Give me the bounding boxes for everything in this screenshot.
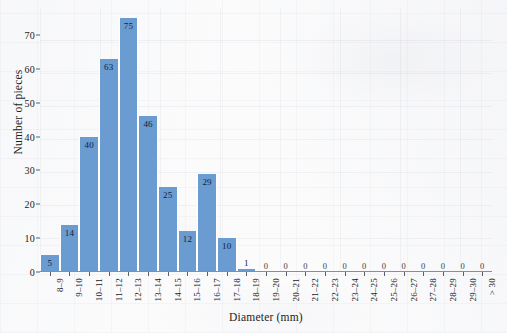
x-axis-tick: > 30 bbox=[472, 272, 492, 312]
bar-value-label: 0 bbox=[433, 261, 453, 271]
x-axis-tick-mark bbox=[463, 272, 464, 276]
y-axis-tick-label: 40 bbox=[24, 131, 35, 142]
x-axis-tick: 17–18 bbox=[217, 272, 237, 312]
bar-value-label: 40 bbox=[80, 140, 98, 150]
x-axis-tick-mark bbox=[364, 272, 365, 276]
bar-slot: 0 bbox=[276, 8, 296, 272]
bar-slot: 10 bbox=[217, 8, 237, 272]
bar-slot: 46 bbox=[138, 8, 158, 272]
x-axis-tick-mark bbox=[168, 272, 169, 276]
bar-value-label: 5 bbox=[41, 258, 59, 268]
y-axis-tick-label: 70 bbox=[24, 30, 35, 41]
x-axis-tick: 23–24 bbox=[335, 272, 355, 312]
histogram-bar[interactable]: 14 bbox=[60, 225, 80, 272]
bar-slot: 63 bbox=[99, 8, 119, 272]
x-axis-tick: 26–27 bbox=[394, 272, 414, 312]
x-axis-tick: 18–19 bbox=[237, 272, 257, 312]
histogram-bar[interactable]: 5 bbox=[40, 255, 60, 272]
x-axis-tick-mark bbox=[246, 272, 247, 276]
x-axis-tick-mark bbox=[305, 272, 306, 276]
bar-value-label: 12 bbox=[179, 234, 197, 244]
bar-value-label: 0 bbox=[315, 261, 335, 271]
bar-slot: 0 bbox=[296, 8, 316, 272]
x-axis-tick: 20–21 bbox=[276, 272, 296, 312]
bar-value-label: 0 bbox=[296, 261, 316, 271]
bar-value-label: 46 bbox=[139, 119, 157, 129]
bar-value-label: 10 bbox=[218, 241, 236, 251]
bar-slot: 25 bbox=[158, 8, 178, 272]
x-axis-tick: 12–13 bbox=[119, 272, 139, 312]
x-axis-tick-mark bbox=[227, 272, 228, 276]
bar-slot: 0 bbox=[335, 8, 355, 272]
x-axis-tick: 28–29 bbox=[433, 272, 453, 312]
x-axis-tick-mark bbox=[207, 272, 208, 276]
histogram-bar[interactable]: 10 bbox=[217, 238, 237, 272]
x-axis-tick-mark bbox=[443, 272, 444, 276]
bar-value-label: 0 bbox=[276, 261, 296, 271]
y-axis-tick-label: 30 bbox=[24, 165, 35, 176]
bar-slot: 0 bbox=[472, 8, 492, 272]
x-axis-tick-mark bbox=[128, 272, 129, 276]
bar-slot: 0 bbox=[315, 8, 335, 272]
histogram-bar[interactable]: 40 bbox=[79, 137, 99, 272]
x-axis-tick: 29–30 bbox=[453, 272, 473, 312]
bar-series: 51440637546251229101000000000000 bbox=[40, 8, 492, 272]
x-axis-tick: 9–10 bbox=[60, 272, 80, 312]
x-axis-tick: 10–11 bbox=[79, 272, 99, 312]
bar-slot: 12 bbox=[178, 8, 198, 272]
bar-value-label: 0 bbox=[256, 261, 276, 271]
bar-value-label: 0 bbox=[335, 261, 355, 271]
x-axis-tick: 16–17 bbox=[197, 272, 217, 312]
bar-slot: 14 bbox=[60, 8, 80, 272]
x-axis-tick: 13–14 bbox=[138, 272, 158, 312]
bar-slot: 1 bbox=[237, 8, 257, 272]
x-axis-tick-mark bbox=[423, 272, 424, 276]
bar-value-label: 0 bbox=[394, 261, 414, 271]
x-axis-tick: 19–20 bbox=[256, 272, 276, 312]
x-axis-ticks: 8–99–1010–1111–1212–1313–1414–1515–1616–… bbox=[40, 272, 492, 312]
bar-slot: 40 bbox=[79, 8, 99, 272]
x-axis-tick-mark bbox=[89, 272, 90, 276]
bar-value-label: 1 bbox=[238, 258, 256, 268]
bar-slot: 0 bbox=[413, 8, 433, 272]
x-axis-tick: 27–28 bbox=[413, 272, 433, 312]
histogram-figure: Number of pieces 010203040506070 5144063… bbox=[0, 0, 507, 333]
x-axis-tick-mark bbox=[109, 272, 110, 276]
bar-value-label: 0 bbox=[374, 261, 394, 271]
plot-area: 51440637546251229101000000000000 bbox=[40, 8, 492, 272]
bar-slot: 0 bbox=[394, 8, 414, 272]
histogram-bar[interactable]: 12 bbox=[178, 231, 198, 272]
histogram-bar[interactable]: 63 bbox=[99, 59, 119, 272]
y-axis-tick-label: 0 bbox=[30, 267, 35, 278]
x-axis-title: Diameter (mm) bbox=[40, 311, 492, 323]
x-axis-tick-mark bbox=[345, 272, 346, 276]
bar-value-label: 75 bbox=[120, 21, 138, 31]
x-axis-tick-label: > 30 bbox=[487, 278, 497, 295]
x-axis-tick-mark bbox=[482, 272, 483, 276]
bar-slot: 75 bbox=[119, 8, 139, 272]
histogram-bar[interactable]: 25 bbox=[158, 187, 178, 272]
x-axis-tick: 22–23 bbox=[315, 272, 335, 312]
y-axis-tick-label: 20 bbox=[24, 199, 35, 210]
bar-value-label: 0 bbox=[413, 261, 433, 271]
x-axis-tick: 11–12 bbox=[99, 272, 119, 312]
x-axis-tick: 21–22 bbox=[296, 272, 316, 312]
x-axis-tick: 8–9 bbox=[40, 272, 60, 312]
histogram-bar[interactable]: 46 bbox=[138, 116, 158, 272]
bar-value-label: 63 bbox=[100, 62, 118, 72]
y-axis-tick-label: 50 bbox=[24, 97, 35, 108]
histogram-bar[interactable]: 75 bbox=[119, 18, 139, 272]
bar-slot: 5 bbox=[40, 8, 60, 272]
x-axis-tick: 14–15 bbox=[158, 272, 178, 312]
x-axis-tick: 25–26 bbox=[374, 272, 394, 312]
bar-value-label: 14 bbox=[61, 228, 79, 238]
y-axis-tick-label: 10 bbox=[24, 233, 35, 244]
x-axis-tick-mark bbox=[50, 272, 51, 276]
x-axis-tick-mark bbox=[325, 272, 326, 276]
x-axis-tick-mark bbox=[266, 272, 267, 276]
bar-value-label: 29 bbox=[198, 177, 216, 187]
bar-slot: 0 bbox=[374, 8, 394, 272]
y-axis-ticks: 010203040506070 bbox=[0, 0, 40, 333]
x-axis-tick: 24–25 bbox=[355, 272, 375, 312]
histogram-bar[interactable]: 29 bbox=[197, 174, 217, 272]
